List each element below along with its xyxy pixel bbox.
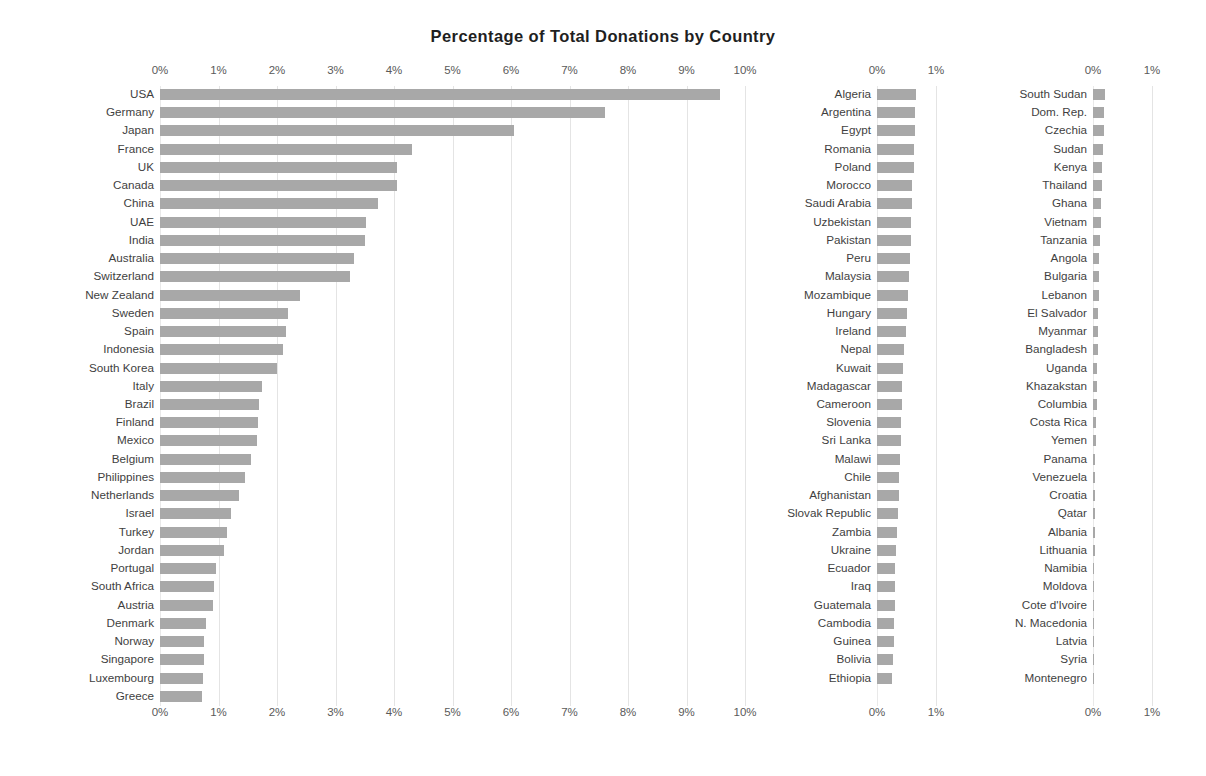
bar-category-label: Moldova: [961, 578, 1087, 596]
bar-category-label: Morocco: [761, 177, 871, 195]
chart-bar-row: Albania: [962, 524, 1206, 542]
bar-category-label: Ukraine: [761, 542, 871, 560]
bar: [1093, 454, 1095, 465]
bar: [877, 235, 911, 246]
bar: [160, 180, 397, 191]
bar: [1093, 654, 1094, 665]
top-axis-right: 0%1%: [962, 64, 1206, 86]
axis-tick-label: 1%: [928, 64, 945, 76]
bar: [1093, 581, 1094, 592]
bar-category-label: Denmark: [4, 615, 154, 633]
chart-bar-row: Yemen: [962, 432, 1206, 450]
chart-bar-row: Guinea: [762, 633, 962, 651]
chart-bar-row: Hungary: [762, 305, 962, 323]
chart-bar-row: China: [0, 195, 762, 213]
bar-category-label: South Korea: [4, 360, 154, 378]
axis-tick-label: 1%: [1144, 64, 1161, 76]
chart-bar-row: Slovenia: [762, 414, 962, 432]
bar: [877, 673, 892, 684]
bar-category-label: Belgium: [4, 451, 154, 469]
axis-tick-label: 5%: [444, 706, 461, 718]
chart-bar-row: Columbia: [962, 396, 1206, 414]
plot-area-right: South SudanDom. Rep.CzechiaSudanKenyaTha…: [962, 86, 1206, 706]
bar: [877, 417, 901, 428]
bar: [160, 545, 224, 556]
bar: [877, 271, 909, 282]
bar-category-label: Slovak Republic: [761, 505, 871, 523]
chart-bar-row: El Salvador: [962, 305, 1206, 323]
axis-tick-label: 2%: [269, 64, 286, 76]
chart-bar-row: Greece: [0, 688, 762, 706]
chart-bar-row: France: [0, 141, 762, 159]
bar: [877, 654, 893, 665]
bar-category-label: Portugal: [4, 560, 154, 578]
chart-bar-row: Romania: [762, 141, 962, 159]
chart-bar-row: Zambia: [762, 524, 962, 542]
plot-area-middle: AlgeriaArgentinaEgyptRomaniaPolandMorocc…: [762, 86, 962, 706]
bar: [1093, 545, 1095, 556]
axis-tick-label: 7%: [561, 64, 578, 76]
chart-bar-row: Montenegro: [962, 670, 1206, 688]
bar-category-label: Saudi Arabia: [761, 195, 871, 213]
bar: [160, 527, 227, 538]
chart-bar-row: Cote d'Ivoire: [962, 597, 1206, 615]
axis-tick-label: 8%: [620, 64, 637, 76]
axis-tick-label: 10%: [733, 706, 756, 718]
bar: [1093, 290, 1099, 301]
bar-category-label: Spain: [4, 323, 154, 341]
bar-category-label: Bolivia: [761, 651, 871, 669]
chart-bar-row: South Africa: [0, 578, 762, 596]
bar: [160, 162, 397, 173]
bar: [877, 545, 896, 556]
axis-tick-label: 0%: [1085, 706, 1102, 718]
bar: [1093, 144, 1103, 155]
chart-bar-row: Vietnam: [962, 214, 1206, 232]
axis-tick-label: 6%: [503, 706, 520, 718]
bar-category-label: N. Macedonia: [961, 615, 1087, 633]
bar-category-label: Australia: [4, 250, 154, 268]
bar-category-label: Angola: [961, 250, 1087, 268]
bar-category-label: Uganda: [961, 360, 1087, 378]
chart-bar-row: Slovak Republic: [762, 505, 962, 523]
bar: [160, 673, 203, 684]
bar-category-label: Croatia: [961, 487, 1087, 505]
plot-area-left: USAGermanyJapanFranceUKCanadaChinaUAEInd…: [0, 86, 762, 706]
bar-category-label: Lebanon: [961, 287, 1087, 305]
chart-bar-row: Angola: [962, 250, 1206, 268]
bar: [877, 198, 912, 209]
chart-bar-row: Luxembourg: [0, 670, 762, 688]
bar-category-label: Qatar: [961, 505, 1087, 523]
bar-rows-right: South SudanDom. Rep.CzechiaSudanKenyaTha…: [962, 86, 1206, 688]
bar: [877, 527, 897, 538]
chart-bar-row: Pakistan: [762, 232, 962, 250]
bar-category-label: Czechia: [961, 122, 1087, 140]
bar-category-label: El Salvador: [961, 305, 1087, 323]
chart-bar-row: Croatia: [962, 487, 1206, 505]
chart-panel-left: 0%1%2%3%4%5%6%7%8%9%10% USAGermanyJapanF…: [0, 64, 762, 728]
bar: [1093, 326, 1098, 337]
axis-tick-label: 3%: [327, 706, 344, 718]
bar-category-label: Myanmar: [961, 323, 1087, 341]
bar: [877, 217, 911, 228]
bar: [160, 472, 245, 483]
bar-category-label: Ethiopia: [761, 670, 871, 688]
bar: [1093, 180, 1102, 191]
bar-category-label: Romania: [761, 141, 871, 159]
chart-bar-row: Spain: [0, 323, 762, 341]
bar-category-label: Finland: [4, 414, 154, 432]
axis-tick-label: 5%: [444, 64, 461, 76]
axis-tick-label: 1%: [928, 706, 945, 718]
bar-category-label: Vietnam: [961, 214, 1087, 232]
chart-bar-row: South Sudan: [962, 86, 1206, 104]
chart-bar-row: Bangladesh: [962, 341, 1206, 359]
bar: [1093, 344, 1098, 355]
bar-category-label: Philippines: [4, 469, 154, 487]
chart-bar-row: Malaysia: [762, 268, 962, 286]
chart-bar-row: Khazakstan: [962, 378, 1206, 396]
chart-bar-row: Saudi Arabia: [762, 195, 962, 213]
chart-bar-row: Dom. Rep.: [962, 104, 1206, 122]
axis-tick-label: 0%: [869, 64, 886, 76]
bar-category-label: Slovenia: [761, 414, 871, 432]
chart-bar-row: Italy: [0, 378, 762, 396]
bar-category-label: Latvia: [961, 633, 1087, 651]
